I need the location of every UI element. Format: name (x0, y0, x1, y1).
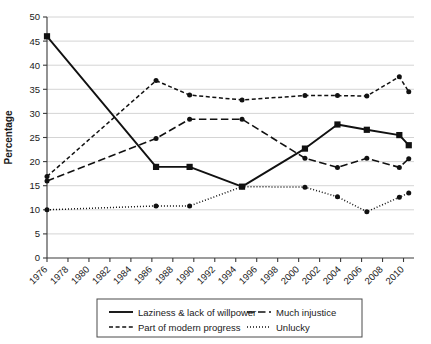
data-point (397, 74, 402, 79)
chart-container: 0510152025303540455019761978198019821984… (0, 0, 431, 344)
data-point (154, 136, 159, 141)
data-point (240, 117, 245, 122)
data-point (44, 33, 50, 39)
data-point (45, 174, 50, 179)
x-tick-label: 1986 (132, 264, 155, 287)
data-point (154, 203, 159, 208)
data-point (187, 93, 192, 98)
line-chart: 0510152025303540455019761978198019821984… (0, 0, 431, 344)
x-tick-label: 2000 (278, 264, 301, 287)
data-point (335, 194, 340, 199)
data-point (396, 132, 402, 138)
data-point (302, 156, 307, 161)
x-tick-label: 2006 (341, 264, 364, 287)
data-point (45, 178, 50, 183)
data-point (240, 97, 245, 102)
data-point (335, 93, 340, 98)
x-tick-label: 2008 (362, 264, 385, 287)
data-point (187, 203, 192, 208)
x-tick-label: 1998 (257, 264, 280, 287)
y-tick-label: 10 (29, 204, 40, 215)
data-point (364, 94, 369, 99)
series-2 (45, 117, 412, 184)
x-tick-label: 1982 (90, 264, 113, 287)
series-0 (44, 33, 412, 190)
x-tick-label: 1988 (153, 264, 176, 287)
legend-label: Unlucky (276, 322, 310, 333)
y-axis-title: Percentage (3, 110, 14, 164)
x-tick-label: 1996 (236, 264, 259, 287)
legend-label: Laziness & lack of willpower (138, 307, 256, 318)
data-point (406, 156, 411, 161)
y-tick-label: 5 (35, 228, 40, 239)
data-point (154, 78, 159, 83)
data-point (187, 117, 192, 122)
data-point (406, 190, 411, 195)
data-point (334, 121, 340, 127)
data-point (302, 145, 308, 151)
legend-label: Part of modern progress (138, 322, 241, 333)
y-tick-label: 25 (29, 132, 40, 143)
data-point (397, 165, 402, 170)
data-point (187, 164, 193, 170)
data-point (406, 89, 411, 94)
y-tick-label: 50 (29, 11, 40, 22)
series-line (47, 187, 409, 212)
x-tick-label: 1992 (194, 264, 217, 287)
data-point (302, 185, 307, 190)
y-tick-label: 30 (29, 108, 40, 119)
y-tick-label: 45 (29, 36, 40, 47)
data-point (240, 184, 245, 189)
y-tick-label: 15 (29, 180, 40, 191)
data-point (397, 195, 402, 200)
y-tick-label: 40 (29, 60, 40, 71)
x-tick-label: 1980 (69, 264, 92, 287)
data-point (364, 127, 370, 133)
data-point (364, 156, 369, 161)
x-tick-label: 1994 (215, 264, 238, 287)
x-tick-label: 2010 (383, 264, 406, 287)
series-1 (45, 74, 412, 179)
x-tick-label: 2004 (320, 264, 343, 287)
y-tick-label: 20 (29, 156, 40, 167)
data-point (406, 142, 412, 148)
data-point (335, 165, 340, 170)
data-point (364, 209, 369, 214)
x-tick-label: 2002 (299, 264, 322, 287)
y-tick-label: 35 (29, 84, 40, 95)
legend-label: Much injustice (276, 307, 336, 318)
x-tick-label: 1976 (27, 264, 50, 287)
x-tick-label: 1984 (111, 264, 134, 287)
data-point (45, 207, 50, 212)
x-tick-label: 1978 (48, 264, 71, 287)
data-point (153, 164, 159, 170)
y-tick-label: 0 (35, 252, 40, 263)
series-line (47, 36, 409, 186)
x-tick-label: 1990 (173, 264, 196, 287)
data-point (302, 93, 307, 98)
